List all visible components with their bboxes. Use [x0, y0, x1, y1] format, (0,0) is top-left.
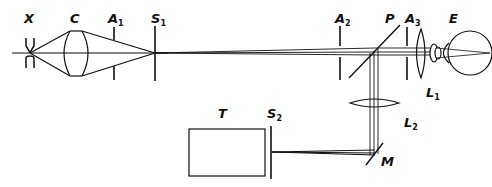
label-s2: S2 — [267, 106, 282, 123]
label-l2: L2 — [404, 115, 418, 132]
eye-e — [430, 31, 492, 75]
label-a1: A1 — [107, 11, 124, 28]
label-a2: A2 — [334, 11, 351, 28]
lens-l2 — [350, 99, 399, 107]
lens-l1 — [417, 29, 426, 78]
label-c: C — [70, 11, 80, 26]
target-box-t — [189, 129, 265, 176]
label-l1: L1 — [426, 85, 440, 102]
label-p: P — [385, 11, 395, 26]
label-x: X — [23, 11, 35, 26]
label-e: E — [449, 11, 458, 26]
label-a3: A3 — [404, 11, 421, 28]
beam-splitter-p — [349, 25, 400, 78]
optical-diagram: X C A1 S1 A2 P A3 E L1 L2 T S2 M — [0, 0, 492, 187]
label-s1: S1 — [151, 11, 166, 28]
label-t: T — [218, 106, 228, 121]
label-m: M — [381, 154, 394, 169]
